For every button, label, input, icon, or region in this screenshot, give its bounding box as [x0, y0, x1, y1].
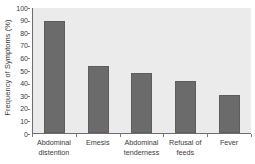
x-axis-category-label: Refusal offeeds	[163, 138, 207, 164]
x-axis-category-label-line2: feeds	[163, 148, 207, 158]
x-axis-tick-mark	[76, 134, 77, 137]
x-axis-category-label-line2: distention	[32, 148, 76, 158]
bar-slot	[33, 8, 77, 133]
x-axis-category-label-line1: Emesis	[86, 138, 110, 147]
bar[interactable]	[88, 66, 109, 133]
y-axis-title-text: Frequency of Symptoms (%)	[3, 19, 12, 115]
x-axis-category-label-line1: Abdominal	[37, 138, 71, 147]
x-axis-tick-mark	[251, 134, 252, 137]
x-axis-tick-mark	[163, 134, 164, 137]
x-axis-category-label-line1: Fever	[220, 138, 238, 147]
bar[interactable]	[219, 95, 240, 133]
y-axis-tick-mark	[28, 109, 31, 110]
y-axis-tick-mark	[28, 33, 31, 34]
bar[interactable]	[44, 21, 65, 133]
x-axis-tick-mark	[207, 134, 208, 137]
x-axis-tick-mark	[120, 134, 121, 137]
bar-slot	[207, 8, 251, 133]
bar-slot	[77, 8, 121, 133]
bar-slot	[164, 8, 208, 133]
bar-chart-figure: Frequency of Symptoms (%) 10090807060504…	[0, 0, 255, 164]
y-axis-tick-labels: 1009080706050403020100	[13, 0, 30, 140]
y-axis-tick-mark	[28, 46, 31, 47]
x-axis-category-label: Emesis	[76, 138, 120, 164]
bar-slot	[120, 8, 164, 133]
bar[interactable]	[131, 73, 152, 133]
x-axis-category-label-line1: Abdominal	[125, 138, 159, 147]
y-axis-title: Frequency of Symptoms (%)	[0, 0, 14, 134]
x-axis-category-label: Abdominaltenderness	[120, 138, 164, 164]
x-axis-category-labels: AbdominaldistentionEmesisAbdominaltender…	[32, 138, 251, 164]
y-axis-tick-label: 100	[16, 5, 28, 12]
x-axis-category-label: Abdominaldistention	[32, 138, 76, 164]
x-axis-category-label-line1: Refusal of	[169, 138, 201, 147]
y-axis-tick-mark	[28, 58, 31, 59]
y-axis-tick-mark	[28, 71, 31, 72]
bar[interactable]	[175, 81, 196, 133]
plot-area	[32, 8, 251, 134]
y-axis-tick-mark	[28, 8, 31, 9]
x-axis-category-label: Fever	[207, 138, 251, 164]
y-axis-tick-mark	[28, 121, 31, 122]
x-axis-category-label-line2: tenderness	[120, 148, 164, 158]
x-axis-tick-mark	[32, 134, 33, 137]
y-axis-tick-mark	[28, 96, 31, 97]
bar-series	[33, 8, 251, 133]
y-axis-tick-mark	[28, 84, 31, 85]
y-axis-tick-mark	[28, 21, 31, 22]
y-axis-tick-mark	[28, 134, 31, 135]
